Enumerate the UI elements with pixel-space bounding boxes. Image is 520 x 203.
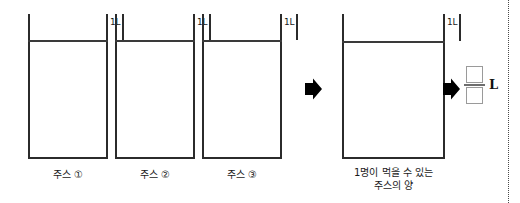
- page-margin-dotted-rule: [508, 0, 509, 203]
- container-juice-2: [115, 14, 195, 159]
- caption-juice-per-person: 1명이 먹을 수 있는 주스의 양: [328, 166, 459, 192]
- container-base: [202, 157, 282, 159]
- unit-label-3: 1L: [284, 18, 294, 27]
- container-right-wall: [193, 14, 195, 159]
- container-base: [342, 157, 445, 159]
- fraction: [464, 66, 485, 104]
- juice-level-line: [342, 41, 445, 43]
- caption-juice-3: 주스 ③: [202, 168, 282, 181]
- caption-line-2: 주스의 양: [328, 179, 459, 192]
- container-juice-3: [202, 14, 282, 159]
- juice-level-line: [202, 40, 282, 42]
- container-left-wall: [115, 14, 117, 159]
- unit-label-4: 1L: [447, 18, 457, 27]
- right-arrow-icon: [303, 78, 323, 100]
- container-left-wall: [28, 14, 30, 159]
- container-right-wall: [280, 14, 282, 159]
- container-juice-per-person: [342, 14, 445, 159]
- juice-level-line: [115, 40, 195, 42]
- answer-fraction-group: L: [464, 66, 498, 104]
- caption-juice-2: 주스 ②: [115, 168, 195, 181]
- caption-line-1: 1명이 먹을 수 있는: [328, 166, 459, 179]
- unit-tick-mark-4: [459, 14, 461, 41]
- container-right-wall: [106, 14, 108, 159]
- juice-level-line: [28, 40, 108, 42]
- container-base: [28, 157, 108, 159]
- answer-unit-label: L: [489, 78, 498, 91]
- unit-tick-mark-3: [296, 14, 298, 40]
- container-left-wall: [342, 14, 344, 159]
- fraction-bar: [464, 84, 485, 86]
- right-arrow-icon: [441, 78, 461, 100]
- figure-canvas: 1L 주스 ① 1L 주스 ② 1L 주스 ③ 1L 1명이 먹을 수 있는 주…: [0, 0, 520, 203]
- container-base: [115, 157, 195, 159]
- numerator-input-box[interactable]: [466, 66, 483, 83]
- caption-juice-1: 주스 ①: [28, 168, 108, 181]
- container-juice-1: [28, 14, 108, 159]
- denominator-input-box[interactable]: [466, 87, 483, 104]
- container-left-wall: [202, 14, 204, 159]
